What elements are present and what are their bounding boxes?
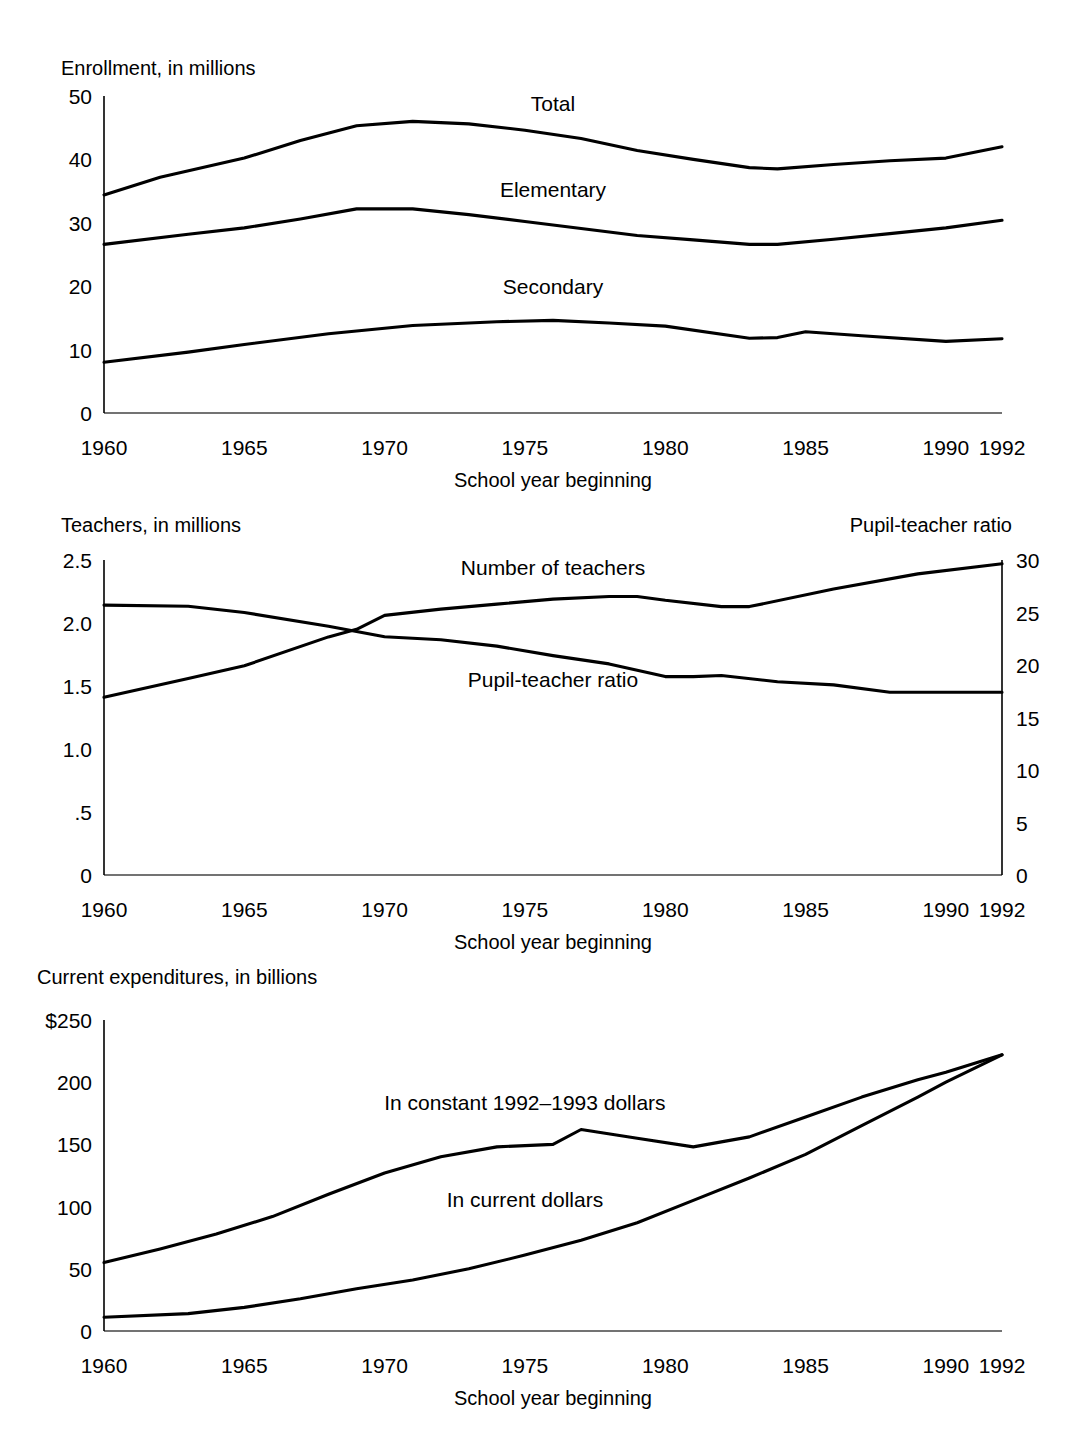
x-tick-label: 1980 <box>642 436 689 459</box>
x-tick-label: 1965 <box>221 898 268 921</box>
x-tick-label: 1990 <box>923 898 970 921</box>
y-tick-label-left: 50 <box>69 85 92 108</box>
y-tick-label-left: 40 <box>69 148 92 171</box>
series-label-in-constant-1992-1993-dollars: In constant 1992–1993 dollars <box>384 1091 665 1114</box>
x-tick-label: 1980 <box>642 898 689 921</box>
series-line-in-constant-1992-1993-dollars <box>104 1055 1002 1263</box>
x-tick-label: 1975 <box>502 436 549 459</box>
series-label-total: Total <box>531 92 575 115</box>
y-tick-label-left: .5 <box>74 801 92 824</box>
figure-page: Enrollment, in millions 0102030405019601… <box>0 0 1073 1449</box>
x-tick-label: 1985 <box>782 1354 829 1377</box>
y-tick-label-left: 2.0 <box>63 612 92 635</box>
x-tick-label: 1965 <box>221 436 268 459</box>
x-tick-label: 1985 <box>782 898 829 921</box>
x-tick-label: 1990 <box>923 436 970 459</box>
series-label-elementary: Elementary <box>500 178 607 201</box>
x-tick-label: 1960 <box>81 1354 128 1377</box>
x-tick-label: 1985 <box>782 436 829 459</box>
series-label-pupil-teacher-ratio: Pupil-teacher ratio <box>468 668 638 691</box>
x-tick-label: 1960 <box>81 436 128 459</box>
x-tick-label: 1990 <box>923 1354 970 1377</box>
y-tick-label-left: 1.5 <box>63 675 92 698</box>
series-label-number-of-teachers: Number of teachers <box>461 556 645 579</box>
series-label-in-current-dollars: In current dollars <box>447 1188 603 1211</box>
x-tick-label: 1970 <box>361 1354 408 1377</box>
expenditures-plot: 050100150200$250196019651970197519801985… <box>45 1009 1025 1409</box>
x-tick-label: 1970 <box>361 898 408 921</box>
y-tick-label-left: 0 <box>80 864 92 887</box>
y-tick-label-left: 50 <box>69 1258 92 1281</box>
series-label-secondary: Secondary <box>503 275 604 298</box>
x-tick-label: 1992 <box>979 436 1026 459</box>
chart-enrollment: Enrollment, in millions 0102030405019601… <box>0 0 1073 490</box>
y-tick-label-right: 5 <box>1016 812 1028 835</box>
x-axis-title: School year beginning <box>454 1387 652 1409</box>
y-tick-label-left: $250 <box>45 1009 92 1032</box>
y-tick-label-left: 30 <box>69 212 92 235</box>
x-tick-label: 1960 <box>81 898 128 921</box>
x-axis-title: School year beginning <box>454 931 652 953</box>
x-tick-label: 1975 <box>502 898 549 921</box>
y-tick-label-left: 0 <box>80 1320 92 1343</box>
y-tick-label-right: 10 <box>1016 759 1039 782</box>
teachers-unit-title-left: Teachers, in millions <box>61 514 241 536</box>
y-tick-label-right: 20 <box>1016 654 1039 677</box>
x-tick-label: 1975 <box>502 1354 549 1377</box>
chart-teachers: Teachers, in millions Pupil-teacher rati… <box>0 490 1073 960</box>
y-tick-label-right: 0 <box>1016 864 1028 887</box>
y-tick-label-right: 15 <box>1016 707 1039 730</box>
x-tick-label: 1965 <box>221 1354 268 1377</box>
y-tick-label-left: 1.0 <box>63 738 92 761</box>
x-tick-label: 1992 <box>979 898 1026 921</box>
x-tick-label: 1980 <box>642 1354 689 1377</box>
y-tick-label-left: 0 <box>80 402 92 425</box>
teachers-plot: 0.51.01.52.02.50510152025301960196519701… <box>63 549 1040 953</box>
teachers-svg: Teachers, in millions Pupil-teacher rati… <box>0 490 1073 960</box>
y-tick-label-left: 20 <box>69 275 92 298</box>
teachers-unit-title-right: Pupil-teacher ratio <box>850 514 1012 536</box>
series-line-secondary <box>104 320 1002 362</box>
y-tick-label-left: 2.5 <box>63 549 92 572</box>
x-tick-label: 1992 <box>979 1354 1026 1377</box>
y-tick-label-right: 25 <box>1016 602 1039 625</box>
x-axis-title: School year beginning <box>454 469 652 491</box>
y-tick-label-right: 30 <box>1016 549 1039 572</box>
enrollment-svg: Enrollment, in millions 0102030405019601… <box>0 0 1073 490</box>
y-tick-label-left: 200 <box>57 1071 92 1094</box>
enrollment-plot: 0102030405019601965197019751980198519901… <box>69 85 1026 491</box>
chart-expenditures: Current expenditures, in billions 050100… <box>0 960 1073 1449</box>
y-tick-label-left: 10 <box>69 339 92 362</box>
x-tick-label: 1970 <box>361 436 408 459</box>
y-tick-label-left: 100 <box>57 1196 92 1219</box>
y-tick-label-left: 150 <box>57 1133 92 1156</box>
series-line-elementary <box>104 209 1002 245</box>
expenditures-unit-title: Current expenditures, in billions <box>37 966 317 988</box>
enrollment-unit-title: Enrollment, in millions <box>61 57 256 79</box>
expenditures-svg: Current expenditures, in billions 050100… <box>0 960 1073 1449</box>
